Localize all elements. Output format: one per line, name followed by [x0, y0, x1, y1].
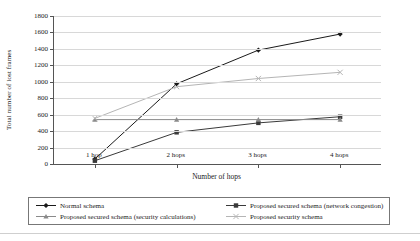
legend-marker-x-icon	[225, 212, 247, 221]
y-tick-label: 0	[22, 161, 48, 168]
y-tick-label: 1400	[22, 45, 48, 52]
chart-figure: Total number of lost frames 180016001400…	[0, 0, 420, 241]
gridline	[54, 82, 381, 83]
y-tick-mark	[50, 65, 54, 66]
y-axis-tick-labels: 180016001400120010008006004002000	[22, 0, 48, 190]
y-tick-mark	[50, 148, 54, 149]
series-line	[95, 72, 340, 118]
y-tick-mark	[50, 164, 54, 165]
legend-item[interactable]: Proposed secured schema (network congest…	[225, 201, 383, 210]
x-tick-label: 4 hops	[330, 152, 348, 159]
data-point-diamond	[43, 203, 48, 208]
legend-item[interactable]: Normal schema	[35, 201, 225, 210]
x-tick-mark	[95, 164, 96, 168]
y-tick-label: 1200	[22, 62, 48, 69]
y-tick-label: 1600	[22, 29, 48, 36]
gridline	[54, 115, 381, 116]
data-point-square	[93, 159, 97, 163]
y-tick-label: 1000	[22, 78, 48, 85]
gridline	[54, 32, 381, 33]
x-tick-mark	[177, 164, 178, 168]
gridline	[54, 49, 381, 50]
y-tick-label: 1800	[22, 13, 48, 20]
y-tick-mark	[50, 131, 54, 132]
x-tick-mark	[258, 164, 259, 168]
legend-label: Proposed secured schema (network congest…	[250, 202, 383, 210]
legend-label: Proposed security schema	[250, 213, 323, 221]
axes	[53, 16, 381, 165]
gridline	[54, 65, 381, 66]
legend-item[interactable]: Proposed secured schema (security calcul…	[35, 212, 225, 221]
legend-marker-diamond-icon	[35, 201, 57, 210]
y-tick-label: 400	[22, 128, 48, 135]
legend-item[interactable]: Proposed security schema	[225, 212, 383, 221]
y-tick-mark	[50, 49, 54, 50]
y-tick-label: 600	[22, 111, 48, 118]
x-tick-label: 2 hops	[166, 152, 184, 159]
y-tick-label: 200	[22, 144, 48, 151]
y-tick-mark	[50, 32, 54, 33]
series-layer	[54, 16, 381, 164]
y-tick-label: 800	[22, 95, 48, 102]
legend-label: Normal schema	[60, 202, 104, 210]
gridline	[54, 98, 381, 99]
legend: Normal schemaProposed secured schema (ne…	[28, 197, 390, 225]
footer-divider	[0, 233, 420, 234]
y-tick-mark	[50, 115, 54, 116]
x-tick-mark	[340, 164, 341, 168]
data-point-square	[234, 203, 238, 207]
plot-area: Total number of lost frames 180016001400…	[0, 0, 420, 190]
x-axis-title: Number of hops	[53, 172, 380, 181]
series-line	[95, 34, 340, 159]
legend-marker-square-icon	[225, 201, 247, 210]
gridline	[54, 16, 381, 17]
gridline	[54, 131, 381, 132]
y-tick-mark	[50, 98, 54, 99]
series-line	[95, 117, 340, 161]
y-tick-mark	[50, 16, 54, 17]
gridline	[54, 148, 381, 149]
x-tick-label: 1 hop	[86, 152, 102, 159]
y-axis-title: Total number of lost frames	[2, 20, 16, 160]
x-tick-label: 3 hops	[248, 152, 266, 159]
legend-marker-triangle-icon	[35, 212, 57, 221]
legend-label: Proposed secured schema (security calcul…	[60, 213, 196, 221]
y-tick-mark	[50, 82, 54, 83]
